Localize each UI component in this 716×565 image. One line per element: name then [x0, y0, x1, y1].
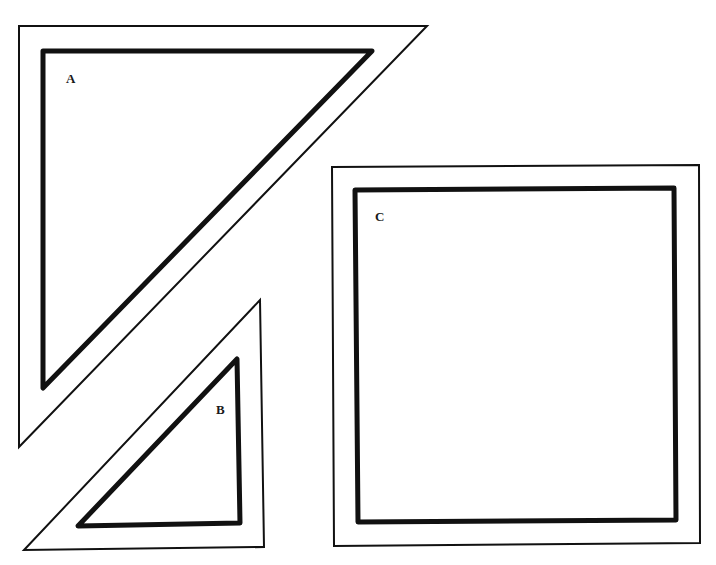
shape-a-label: A [66, 71, 76, 86]
shape-b-outer-outline [24, 300, 264, 550]
shape-c-outer-outline [332, 165, 700, 546]
shape-b-label: B [216, 402, 225, 417]
shape-a-triangle: A [19, 26, 427, 447]
shape-c-inner-outline [355, 188, 676, 522]
shape-a-inner-outline [43, 51, 372, 388]
shape-a-outer-outline [19, 26, 427, 447]
shape-b-triangle: B [24, 300, 264, 550]
shape-b-inner-outline [78, 359, 240, 526]
shape-c-square: C [332, 165, 700, 546]
shape-c-label: C [375, 209, 384, 224]
diagram-canvas: A B C [0, 0, 716, 565]
